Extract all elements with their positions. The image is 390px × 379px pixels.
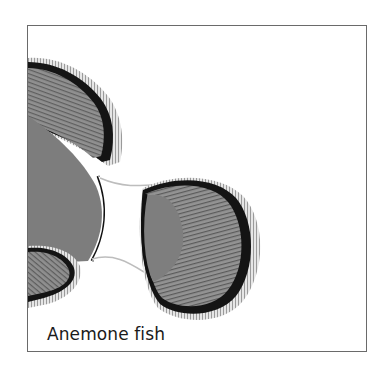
caudal-fin [140, 178, 261, 320]
figure-caption: Anemone fish [47, 324, 165, 344]
figure-frame: Anemone fish [27, 25, 367, 352]
anemone-fish-illustration [28, 26, 367, 352]
